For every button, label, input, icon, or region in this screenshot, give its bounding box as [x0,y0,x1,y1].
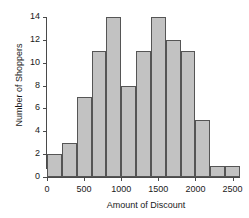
y-tick-mark [43,86,47,87]
x-tick-mark [158,177,159,181]
x-axis-title: Amount of Discount [46,200,246,210]
histogram-bar [151,17,166,177]
histogram-bar [210,166,225,177]
y-tick-mark [43,63,47,64]
y-tick-label: 0 [35,171,40,181]
y-tick-label: 12 [30,34,40,44]
histogram-bar [225,166,240,177]
x-tick-label: 2000 [181,184,209,194]
histogram-bar [195,120,210,177]
y-tick-mark [43,108,47,109]
x-tick-mark [233,177,234,181]
histogram-bar [62,143,77,177]
histogram-bar [77,97,92,177]
histogram-bar [166,40,181,177]
x-tick-mark [121,177,122,181]
histogram-bar [121,86,136,177]
histogram-bar [181,51,196,177]
y-tick-label: 14 [30,11,40,21]
x-tick-label: 500 [70,184,98,194]
y-tick-mark [43,40,47,41]
histogram-bar [106,17,121,177]
histogram-bar [47,154,62,177]
y-tick-mark [43,131,47,132]
y-tick-label: 2 [35,148,40,158]
histogram-bar [136,51,151,177]
histogram-bar [92,51,107,177]
y-tick-mark [43,154,47,155]
x-tick-mark [195,177,196,181]
y-tick-label: 10 [30,57,40,67]
y-tick-mark [43,17,47,18]
y-tick-label: 4 [35,125,40,135]
x-tick-label: 0 [33,184,61,194]
x-tick-mark [47,177,48,181]
y-tick-label: 6 [35,102,40,112]
histogram-figure: Number of Shoppers Amount of Discount 02… [0,0,249,218]
x-tick-label: 2500 [219,184,247,194]
y-tick-label: 8 [35,80,40,90]
x-tick-label: 1500 [144,184,172,194]
x-tick-label: 1000 [107,184,135,194]
x-tick-mark [84,177,85,181]
